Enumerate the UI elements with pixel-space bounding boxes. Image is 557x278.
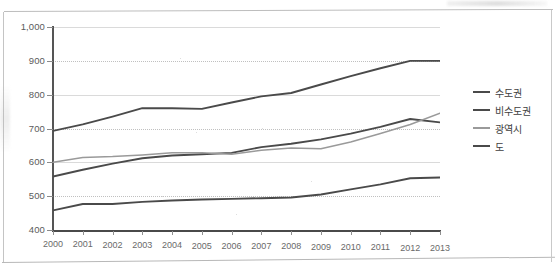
- x-tick-2010: [351, 231, 352, 235]
- y-tick-500: [47, 196, 53, 197]
- x-tick-2002: [113, 231, 114, 235]
- x-tick-2005: [202, 231, 203, 235]
- series-line-2: [53, 113, 440, 162]
- y-tick-700: [47, 129, 53, 130]
- legend-item-1[interactable]: 비수도권: [473, 102, 553, 118]
- legend-swatch-icon-2: [473, 127, 490, 129]
- series-line-0: [53, 61, 440, 131]
- y-tick-900: [47, 61, 53, 62]
- y-tick-label-700: 700: [29, 123, 45, 134]
- y-tick-label-1000: 1,000: [21, 21, 45, 32]
- series-lines: [53, 27, 440, 230]
- x-tick-2012: [410, 231, 411, 235]
- legend-label-0: 수도권: [495, 85, 522, 100]
- legend-swatch-icon-0: [473, 91, 490, 93]
- y-tick-label-800: 800: [29, 89, 45, 100]
- series-line-3: [53, 178, 440, 211]
- x-tick-2009: [321, 231, 322, 235]
- legend-label-2: 광역시: [495, 121, 522, 136]
- x-tick-2006: [232, 231, 233, 235]
- y-tick-1000: [47, 27, 53, 28]
- y-tick-label-400: 400: [29, 224, 45, 235]
- y-tick-label-900: 900: [29, 55, 45, 66]
- x-tick-label-2013: 2013: [423, 243, 457, 253]
- y-tick-label-500: 500: [29, 190, 45, 201]
- legend-item-3[interactable]: 도: [473, 138, 553, 154]
- chart-legend: 수도권비수도권광역시도: [473, 84, 553, 156]
- line-chart: 4005006007008009001,000 2000200120022003…: [0, 0, 557, 278]
- legend-label-3: 도: [495, 139, 504, 154]
- x-tick-2004: [172, 231, 173, 235]
- y-axis-labels: 4005006007008009001,000: [0, 0, 45, 278]
- legend-item-0[interactable]: 수도권: [473, 84, 553, 100]
- x-tick-2001: [83, 231, 84, 235]
- legend-item-2[interactable]: 광역시: [473, 120, 553, 136]
- legend-swatch-icon-1: [473, 109, 490, 111]
- x-tick-2008: [291, 231, 292, 235]
- y-tick-400: [47, 230, 53, 231]
- y-tick-800: [47, 95, 53, 96]
- legend-swatch-icon-3: [473, 145, 490, 147]
- x-tick-2007: [261, 231, 262, 235]
- series-line-1: [53, 119, 440, 177]
- x-tick-2011: [380, 231, 381, 235]
- y-tick-600: [47, 162, 53, 163]
- x-tick-2013: [440, 231, 441, 235]
- x-tick-2000: [53, 231, 54, 235]
- legend-label-1: 비수도권: [495, 103, 531, 118]
- x-axis-line: [52, 230, 441, 232]
- x-tick-2003: [142, 231, 143, 235]
- y-tick-label-600: 600: [29, 156, 45, 167]
